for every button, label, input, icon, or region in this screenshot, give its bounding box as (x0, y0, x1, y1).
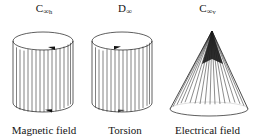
symmetry-base-electric: C (199, 2, 207, 14)
caption-electrical-field: Electrical field (162, 123, 253, 137)
panel-magnetic-field: C∞h (0, 0, 88, 138)
symmetry-base-torsion: D (118, 2, 126, 14)
cone-ruling (177, 31, 212, 105)
symmetry-suffix-magnetic: h (49, 8, 52, 15)
cylinder-magnetic-art (0, 15, 88, 115)
caption-magnetic-field: Magnetic field (0, 123, 88, 137)
cone-right-edge (212, 31, 248, 109)
symmetry-suffix-electric: v (212, 8, 215, 15)
panel-torsion: D∞ (85, 0, 165, 138)
caption-torsion: Torsion (85, 123, 165, 137)
arrowhead-top-torsion (114, 46, 121, 49)
cone-ruling (181, 31, 212, 103)
cylinder-torsion-art (85, 15, 165, 115)
panel-electrical-field: C∞v (162, 0, 253, 138)
cone-electric-art (162, 15, 253, 115)
symmetry-figure: C∞h (0, 0, 253, 138)
cone-base-arc (170, 109, 248, 116)
cone-base-arc-back (170, 102, 248, 109)
cone-ruling (185, 31, 212, 102)
